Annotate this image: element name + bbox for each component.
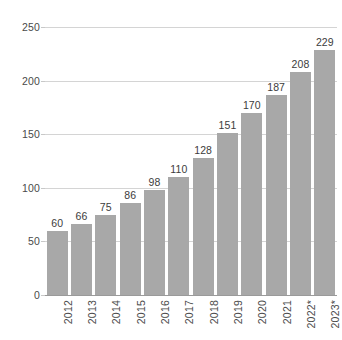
bar-group: 98 xyxy=(144,27,165,295)
x-axis-label: 2017 xyxy=(183,300,195,324)
bar-group: 229 xyxy=(314,27,335,295)
x-axis-label: 2015 xyxy=(135,300,147,324)
bar-group: 187 xyxy=(266,27,287,295)
bar-value-label: 98 xyxy=(149,176,161,188)
bars-container: 6066758698110128151170187208229 xyxy=(45,27,337,295)
x-axis-label: 2023* xyxy=(329,300,341,328)
bar[interactable] xyxy=(241,113,262,295)
bar-group: 170 xyxy=(241,27,262,295)
bar-chart: 250 200 150 100 50 0 6066758698110128151… xyxy=(0,0,342,340)
y-tick-mark xyxy=(41,295,45,296)
x-axis-label: 2020 xyxy=(256,300,268,324)
bar[interactable] xyxy=(266,95,287,295)
bar-group: 75 xyxy=(95,27,116,295)
bar-group: 151 xyxy=(217,27,238,295)
bar-group: 86 xyxy=(120,27,141,295)
x-axis-label: 2013 xyxy=(86,300,98,324)
bar[interactable] xyxy=(290,72,311,295)
bar-value-label: 187 xyxy=(267,81,285,93)
bar-value-label: 75 xyxy=(100,201,112,213)
bar-value-label: 151 xyxy=(219,119,237,131)
y-axis-label: 200 xyxy=(6,75,40,87)
x-axis-labels: 2012201320142015201620172018201920202021… xyxy=(45,298,337,340)
bar-value-label: 110 xyxy=(170,163,187,175)
y-axis-label: 150 xyxy=(6,128,40,140)
bar[interactable] xyxy=(120,203,141,295)
bar[interactable] xyxy=(314,50,335,295)
x-axis-label: 2018 xyxy=(208,300,220,324)
y-axis-label: 100 xyxy=(6,182,40,194)
x-axis-label: 2021 xyxy=(281,300,293,324)
y-axis-label: 250 xyxy=(6,21,40,33)
bar[interactable] xyxy=(144,190,165,295)
bar-value-label: 66 xyxy=(76,210,88,222)
y-axis-label: 0 xyxy=(6,289,40,301)
bar-group: 128 xyxy=(193,27,214,295)
bar-value-label: 229 xyxy=(316,36,334,48)
bar-value-label: 60 xyxy=(51,217,63,229)
bar-group: 110 xyxy=(168,27,189,295)
x-axis-label: 2019 xyxy=(232,300,244,324)
bar[interactable] xyxy=(95,215,116,295)
x-axis-label: 2016 xyxy=(159,300,171,324)
x-axis-line xyxy=(45,295,337,296)
bar-value-label: 86 xyxy=(124,189,136,201)
bar-value-label: 170 xyxy=(243,99,261,111)
y-axis-label: 50 xyxy=(6,235,40,247)
bar-value-label: 128 xyxy=(194,144,212,156)
x-axis-label: 2012 xyxy=(62,300,74,324)
bar[interactable] xyxy=(168,177,189,295)
bar[interactable] xyxy=(193,158,214,295)
bar-group: 66 xyxy=(71,27,92,295)
x-axis-label: 2022* xyxy=(305,300,317,328)
bar[interactable] xyxy=(71,224,92,295)
bar-group: 60 xyxy=(47,27,68,295)
bar-group: 208 xyxy=(290,27,311,295)
x-axis-label: 2014 xyxy=(110,300,122,324)
bar[interactable] xyxy=(47,231,68,295)
bar[interactable] xyxy=(217,133,238,295)
bar-value-label: 208 xyxy=(292,58,310,70)
